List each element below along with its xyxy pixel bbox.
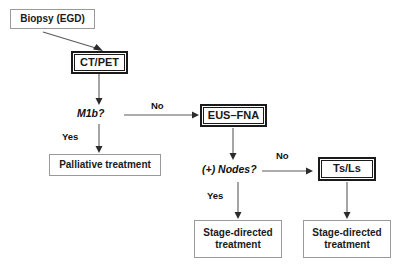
node-stage-directed-treatment-right[interactable]: Stage-directed treatment <box>303 220 391 258</box>
edge-label-m1b-yes: Yes <box>62 131 78 142</box>
edge-nodes-yes-to-stage-left <box>235 182 242 219</box>
node-eus-fna-label: EUS–FNA <box>204 109 263 122</box>
node-ts-ls[interactable]: Ts/Ls <box>318 157 376 181</box>
node-ct-pet-label: CT/PET <box>76 56 123 69</box>
node-ct-pet[interactable]: CT/PET <box>71 51 128 74</box>
node-stage-directed-treatment-left-label: Stage-directed treatment <box>199 227 276 251</box>
node-palliative-treatment[interactable]: Palliative treatment <box>49 154 161 176</box>
edge-eusfna-to-nodes <box>230 128 237 160</box>
node-stage-directed-treatment-right-label: Stage-directed treatment <box>308 227 385 251</box>
edge-label-nodes-no: No <box>276 150 289 161</box>
edge-tsls-to-stage-right <box>344 182 351 219</box>
edge-biopsy-to-ctpet <box>43 32 103 51</box>
edge-label-m1b-no: No <box>151 100 164 111</box>
node-palliative-treatment-label: Palliative treatment <box>55 159 155 171</box>
decision-m1b[interactable]: M1b? <box>77 107 104 119</box>
node-biopsy-egd-label: Biopsy (EGD) <box>16 13 88 25</box>
edge-m1b-yes-to-palliative <box>96 124 103 153</box>
node-eus-fna[interactable]: EUS–FNA <box>200 104 267 127</box>
node-stage-directed-treatment-left[interactable]: Stage-directed treatment <box>194 220 282 258</box>
flowchart-canvas: EUS-FNA : horizontal --> Palliative trea… <box>0 0 398 267</box>
node-biopsy-egd[interactable]: Biopsy (EGD) <box>10 9 95 29</box>
edge-nodes-no-to-tsls <box>262 168 313 175</box>
decision-nodes-positive[interactable]: (+) Nodes? <box>202 163 257 175</box>
node-ts-ls-label: Ts/Ls <box>329 162 365 175</box>
edge-ctpet-to-m1b <box>96 74 103 105</box>
edge-m1b-no-to-eusfna <box>124 112 199 119</box>
edge-label-nodes-yes: Yes <box>207 190 223 201</box>
